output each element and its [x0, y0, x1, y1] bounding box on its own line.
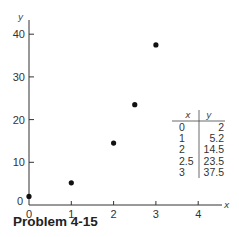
data-point	[132, 102, 137, 107]
x-tick-label: 3	[153, 208, 159, 220]
x-tick-label: 4	[195, 208, 201, 220]
table-cell-y: 37.5	[204, 166, 225, 178]
table-cell-y: 2	[218, 121, 224, 133]
y-tick-label: 10	[13, 156, 25, 168]
data-point	[153, 42, 158, 47]
x-tick-label: 2	[111, 208, 117, 220]
y-tick-label: 20	[13, 114, 25, 126]
table-cell-x: 2.5	[179, 155, 194, 167]
data-point	[69, 180, 74, 185]
data-point	[26, 194, 31, 199]
data-point	[111, 140, 116, 145]
table-cell-y: 5.2	[209, 132, 224, 144]
y-tick-label: 40	[13, 28, 25, 40]
y-tick-label: 0	[17, 195, 23, 207]
table-header-x: x	[184, 110, 191, 120]
table-cell-y: 23.5	[204, 155, 225, 167]
x-axis-label: x	[223, 200, 230, 210]
table-cell-x: 2	[179, 143, 185, 155]
table-cell-x: 3	[179, 166, 185, 178]
y-axis-label: y	[17, 12, 24, 22]
scatter-chart: yx01234010203040xy0215.2214.52.523.5337.…	[0, 0, 239, 237]
table-header-y: y	[205, 110, 212, 120]
figure-caption: Problem 4-15	[13, 214, 98, 229]
table-cell-y: 14.5	[204, 143, 225, 155]
table-cell-x: 0	[179, 121, 185, 133]
y-tick-label: 30	[13, 71, 25, 83]
table-cell-x: 1	[179, 132, 185, 144]
